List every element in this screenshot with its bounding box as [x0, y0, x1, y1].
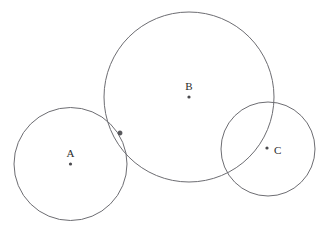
center-dot-c [265, 146, 268, 149]
circle-label-c: C [274, 144, 281, 156]
circle-label-a: A [67, 147, 75, 159]
geometry-figure: A B C [0, 0, 334, 238]
tangency-point-marker [118, 131, 122, 135]
circle-label-b: B [185, 80, 192, 92]
center-dot-a [69, 162, 72, 165]
center-dot-b [187, 95, 190, 98]
geometry-canvas: A B C [0, 0, 334, 238]
